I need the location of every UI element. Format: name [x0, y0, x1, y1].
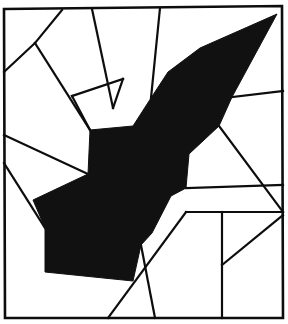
- geometric-line-figure: [0, 0, 288, 324]
- figure-container: [0, 0, 288, 324]
